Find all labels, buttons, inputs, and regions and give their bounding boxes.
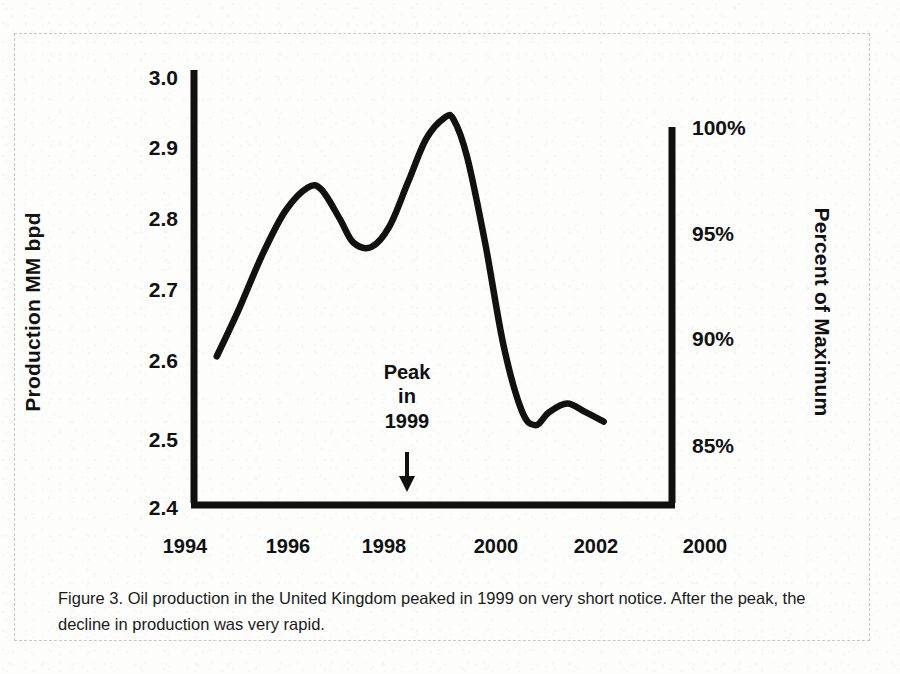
chart-plot-area <box>0 0 900 674</box>
page-background: Production MM bpd Percent of Maximum 3.0… <box>0 0 900 674</box>
figure-3: Production MM bpd Percent of Maximum 3.0… <box>0 0 900 674</box>
production-line-series <box>217 115 604 425</box>
figure-caption: Figure 3. Oil production in the United K… <box>58 586 848 637</box>
